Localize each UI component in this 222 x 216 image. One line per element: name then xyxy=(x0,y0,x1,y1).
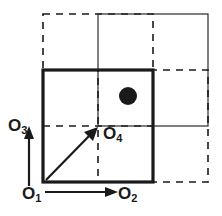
arrow-o1-to-o2 xyxy=(45,187,118,197)
label-o2-subscript: 2 xyxy=(131,192,137,204)
label-o4-subscript: 4 xyxy=(116,132,122,144)
diagonal-arrow-shaft xyxy=(46,134,91,180)
label-o3-subscript: 3 xyxy=(21,124,27,136)
label-o4: O4 xyxy=(103,125,122,144)
label-o4-base: O xyxy=(103,124,116,143)
marker-dot xyxy=(119,87,137,105)
horizontal-arrow-head xyxy=(105,187,118,197)
label-o1: O1 xyxy=(22,185,41,204)
label-o3-base: O xyxy=(8,116,21,135)
label-o3: O3 xyxy=(8,117,27,136)
label-o1-base: O xyxy=(22,184,35,203)
arrow-o1-to-o4 xyxy=(46,127,98,180)
diagram-canvas: O1 O2 O3 O4 xyxy=(0,0,222,216)
label-o1-subscript: 1 xyxy=(35,192,41,204)
label-o2: O2 xyxy=(118,185,137,204)
label-o2-base: O xyxy=(118,184,131,203)
